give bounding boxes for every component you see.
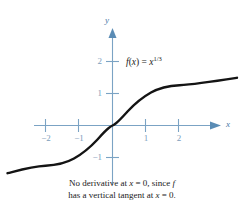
caption-text-1a: No derivative at: [69, 178, 129, 188]
function-equation-label: f(x) = x1/3: [126, 57, 162, 67]
y-tick-label-2: 2: [88, 57, 102, 66]
caption-var-f: f: [173, 178, 176, 188]
caption-line-2: has a vertical tangent at x = 0.: [0, 190, 244, 202]
graph-canvas: [0, 0, 244, 204]
figure-cube-root-graph: y x −2 −1 1 2 2 1 −1 f(x) = x1/3 No deri…: [0, 0, 244, 204]
caption-line-1: No derivative at x = 0, since f: [0, 178, 244, 190]
figure-caption: No derivative at x = 0, since f has a ve…: [0, 178, 244, 201]
x-tick-label--1: −1: [68, 134, 90, 143]
x-tick-label--2: −2: [35, 134, 57, 143]
caption-text-2a: has a vertical tangent at: [68, 190, 155, 200]
y-tick-label--1: −1: [84, 153, 102, 162]
caption-text-2b: = 0.: [159, 190, 175, 200]
caption-text-1b: = 0, since: [133, 178, 172, 188]
y-tick-label-1: 1: [88, 89, 102, 98]
x-axis-arrow-icon: [210, 122, 221, 130]
x-tick-label-2: 2: [169, 134, 189, 143]
equals-sign: =: [139, 57, 149, 67]
y-axis-label: y: [105, 16, 109, 25]
x-tick-label-1: 1: [136, 134, 156, 143]
x-axis-label: x: [226, 120, 230, 129]
y-axis-arrow-icon: [109, 28, 117, 38]
power-exponent: 1/3: [154, 55, 162, 62]
